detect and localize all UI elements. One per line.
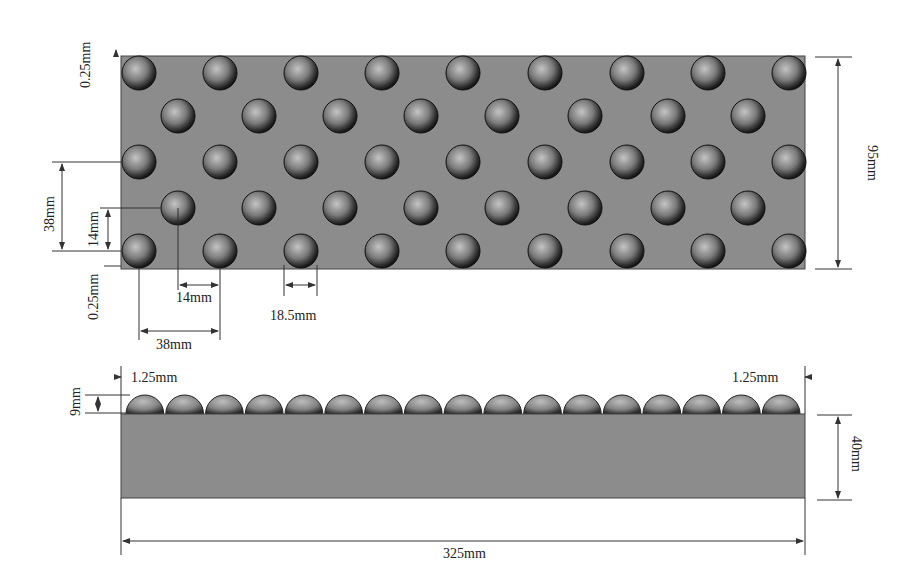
hemisphere-stud <box>762 395 800 414</box>
sphere-stud <box>731 99 765 133</box>
sphere-stud <box>284 234 318 268</box>
sphere-stud <box>203 56 237 90</box>
label-sphere-diameter: 18.5mm <box>270 308 316 323</box>
hemisphere-stud <box>166 395 204 414</box>
sphere-stud <box>122 234 156 268</box>
sphere-stud <box>242 191 276 225</box>
dome-row <box>126 395 800 414</box>
sphere-stud <box>404 99 438 133</box>
label-row-offset: 14mm <box>86 211 101 247</box>
hemisphere-stud <box>365 395 403 414</box>
label-total-length: 325mm <box>443 546 486 561</box>
hemisphere-stud <box>325 395 363 414</box>
sphere-stud <box>446 145 480 179</box>
label-row-pitch: 38mm <box>42 196 57 232</box>
diagram-canvas: 0.25mm 38mm 14mm 0.25mm 14mm 38mm 18.5mm… <box>0 0 906 584</box>
sphere-stud <box>365 145 399 179</box>
label-col-pitch: 38mm <box>156 337 192 352</box>
label-edge-gap-bottom: 0.25mm <box>86 274 101 320</box>
hemisphere-stud <box>563 395 601 414</box>
sphere-stud <box>161 99 195 133</box>
label-base-height: 40mm <box>849 436 864 472</box>
label-col-offset: 14mm <box>176 290 212 305</box>
sphere-stud <box>772 234 806 268</box>
sphere-stud <box>203 145 237 179</box>
sphere-stud <box>568 191 602 225</box>
sphere-grid <box>122 56 806 268</box>
label-edge-gap-top: 0.25mm <box>78 42 93 88</box>
sphere-stud <box>528 56 562 90</box>
side-base <box>121 414 805 498</box>
top-view <box>121 56 806 269</box>
sphere-stud <box>691 145 725 179</box>
sphere-stud <box>446 56 480 90</box>
sphere-stud <box>446 234 480 268</box>
label-right-gap: 1.25mm <box>732 370 778 385</box>
sphere-stud <box>651 191 685 225</box>
sphere-stud <box>485 99 519 133</box>
sphere-stud <box>568 99 602 133</box>
hemisphere-stud <box>285 395 323 414</box>
hemisphere-stud <box>683 395 721 414</box>
hemisphere-stud <box>126 395 164 414</box>
sphere-stud <box>651 99 685 133</box>
label-dome-height: 9mm <box>68 387 83 416</box>
hemisphere-stud <box>643 395 681 414</box>
sphere-stud <box>610 56 644 90</box>
sphere-stud <box>122 145 156 179</box>
sphere-stud <box>731 191 765 225</box>
hemisphere-stud <box>245 395 283 414</box>
sphere-stud <box>485 191 519 225</box>
sphere-stud <box>242 99 276 133</box>
label-plate-width: 95mm <box>865 145 880 181</box>
sphere-stud <box>610 234 644 268</box>
sphere-stud <box>404 191 438 225</box>
hemisphere-stud <box>603 395 641 414</box>
hemisphere-stud <box>722 395 760 414</box>
sphere-stud <box>323 99 357 133</box>
sphere-stud <box>323 191 357 225</box>
sphere-stud <box>365 234 399 268</box>
hemisphere-stud <box>206 395 244 414</box>
sphere-stud <box>528 234 562 268</box>
hemisphere-stud <box>404 395 442 414</box>
side-view <box>121 395 805 498</box>
hemisphere-stud <box>524 395 562 414</box>
sphere-stud <box>203 234 237 268</box>
sphere-stud <box>284 145 318 179</box>
sphere-stud <box>691 56 725 90</box>
sphere-stud <box>772 56 806 90</box>
hemisphere-stud <box>484 395 522 414</box>
sphere-stud <box>122 56 156 90</box>
sphere-stud <box>284 56 318 90</box>
hemisphere-stud <box>444 395 482 414</box>
sphere-stud <box>691 234 725 268</box>
sphere-stud <box>528 145 562 179</box>
label-left-gap: 1.25mm <box>131 370 177 385</box>
sphere-stud <box>772 145 806 179</box>
sphere-stud <box>610 145 644 179</box>
sphere-stud <box>365 56 399 90</box>
